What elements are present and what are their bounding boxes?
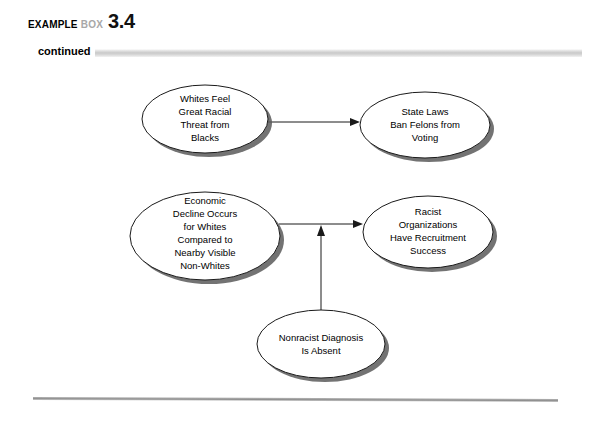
node-text-line: Compared to <box>178 234 233 245</box>
node-text-line: Is Absent <box>301 345 340 356</box>
example-box-header: EXAMPLEBOX3.4 continued <box>0 0 591 64</box>
node-text-line: Great Racial <box>179 106 232 117</box>
node-text-line: Nearby Visible <box>174 247 235 258</box>
node-text-line: Organizations <box>399 219 458 230</box>
node-text-line: Non-Whites <box>180 260 230 271</box>
node-text-line: Racist <box>415 206 442 217</box>
node-racist-organizations[interactable]: Racist Organizations Have Recruitment Su… <box>363 196 497 272</box>
node-economic-decline[interactable]: Economic Decline Occurs for Whites Compa… <box>130 192 284 284</box>
node-text-line: Success <box>410 245 446 256</box>
concept-flow-diagram: Whites Feel Great Racial Threat from Bla… <box>0 64 591 394</box>
node-text-line: Ban Felons from <box>390 119 460 130</box>
node-text-line: for Whites <box>184 221 227 232</box>
node-text-line: Blacks <box>191 132 219 143</box>
continued-row: continued <box>0 44 591 60</box>
continued-label: continued <box>38 44 95 58</box>
node-whites-feel-threat[interactable]: Whites Feel Great Racial Threat from Bla… <box>142 85 272 157</box>
example-kicker-label: EXAMPLE <box>28 19 78 30</box>
node-state-laws-ban-felons[interactable]: State Laws Ban Felons from Voting <box>360 92 494 162</box>
node-text-line: Threat from <box>180 119 229 130</box>
header-gradient-rule <box>38 49 582 57</box>
node-text-line: Nonracist Diagnosis <box>279 332 364 343</box>
node-outline <box>257 310 385 378</box>
example-box-title: EXAMPLEBOX3.4 <box>28 11 135 31</box>
node-text-line: State Laws <box>402 106 449 117</box>
footer-rule <box>33 397 558 402</box>
node-text-line: Voting <box>412 132 438 143</box>
node-text-line: Have Recruitment <box>390 232 466 243</box>
diagram-canvas: Whites Feel Great Racial Threat from Bla… <box>0 64 591 394</box>
node-text-line: Economic <box>184 195 226 206</box>
box-number-label: 3.4 <box>108 10 135 32</box>
box-kicker-label: BOX <box>81 19 103 30</box>
edge-diagnosis-to-link <box>317 225 325 310</box>
example-box-page: EXAMPLEBOX3.4 continued <box>0 0 591 423</box>
node-text-line: Whites Feel <box>180 93 230 104</box>
node-nonracist-diagnosis[interactable]: Nonracist Diagnosis Is Absent <box>257 310 389 382</box>
node-text-line: Decline Occurs <box>173 208 238 219</box>
edge-threat-to-laws <box>268 118 360 126</box>
